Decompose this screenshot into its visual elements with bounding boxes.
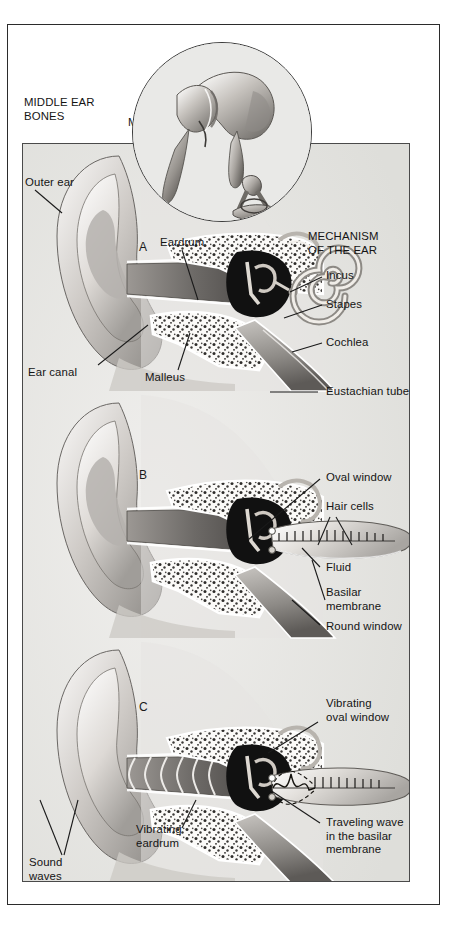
label-eardrum: Eardrum [160,236,204,250]
middle-ear-bones-inset [132,42,312,222]
label-fluid: Fluid [326,561,351,575]
uncoiled-cochlea-b [269,521,410,558]
ear-mechanism-figure: MIDDLE EAR BONES MECHANISM OF THE EAR Ma… [0,0,455,929]
title-mechanism-of-the-ear: MECHANISM OF THE EAR [308,230,379,257]
label-ear-canal: Ear canal [28,366,77,380]
label-hair-cells: Hair cells [326,500,374,514]
title-middle-ear-bones: MIDDLE EAR BONES [24,96,95,123]
label-incus-a: Incus [326,269,354,283]
label-vibrating-oval-window: Vibrating oval window [326,697,389,724]
label-oval-window: Oval window [326,471,392,485]
label-traveling-wave: Traveling wave in the basilar membrane [326,816,404,857]
ossicles-artwork [133,43,311,221]
label-basilar-membrane: Basilar membrane [326,586,381,613]
label-eustachian-tube: Eustachian tube [326,385,409,399]
panel-marker-c: C [139,700,148,714]
label-outer-ear: Outer ear [25,176,74,190]
uncoiled-cochlea-c [269,768,410,805]
label-vibrating-eardrum: Vibrating eardrum [136,823,182,850]
panel-marker-a: A [139,240,147,254]
label-sound-waves: Sound waves [29,856,62,883]
label-stapes-a: Stapes [326,298,362,312]
panel-marker-b: B [139,468,147,482]
label-round-window: Round window [326,620,402,634]
label-malleus-a: Malleus [145,371,185,385]
label-cochlea: Cochlea [326,336,369,350]
